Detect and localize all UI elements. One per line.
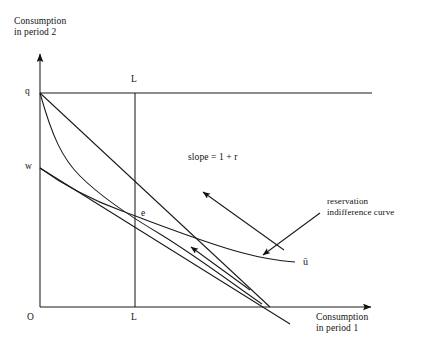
y-axis-title-line2: in period 2 <box>14 27 56 37</box>
x-axis-title-line2: in period 1 <box>316 323 358 333</box>
slope-arrow <box>203 192 284 250</box>
label-origin: O <box>27 312 34 323</box>
slope-annotation: slope = 1 + r <box>188 152 237 163</box>
label-u-bar: ū <box>303 256 308 268</box>
reservation-curve-arrow <box>263 213 320 255</box>
economics-diagram: Consumptionin period 2 Consumptionin per… <box>0 0 426 360</box>
reservation-curve-annotation: reservationindifference curve <box>327 196 394 217</box>
point-label-w: w <box>25 161 32 172</box>
label-L-top: L <box>131 74 137 85</box>
reservation-annotation-line2: indifference curve <box>327 207 394 217</box>
lower-line-arrow <box>191 247 250 290</box>
point-label-q: q <box>25 86 30 97</box>
diagram-canvas <box>0 0 426 360</box>
reservation-annotation-line1: reservation <box>327 196 368 206</box>
label-L-bottom: L <box>131 312 137 323</box>
x-axis-title-line1: Consumption <box>316 312 368 322</box>
point-label-e: e <box>141 208 145 219</box>
x-axis-title: Consumptionin period 1 <box>316 312 368 334</box>
budget-line <box>40 93 270 307</box>
y-axis-title: Consumptionin period 2 <box>14 16 66 38</box>
y-axis-title-line1: Consumption <box>14 16 66 26</box>
